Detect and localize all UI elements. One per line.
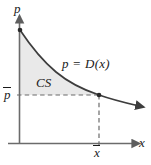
equilibrium-quantity-text: x — [94, 146, 100, 159]
equilibrium-price-label: p — [4, 88, 11, 101]
x-axis-label: x — [139, 136, 145, 149]
y-axis-label: p — [14, 2, 21, 15]
equilibrium-price-text: p — [4, 88, 11, 101]
demand-curve-label: p = D(x) — [62, 57, 110, 70]
equilibrium-quantity-label: x — [94, 146, 100, 159]
figure-canvas — [0, 0, 151, 165]
curve-start-point — [18, 28, 23, 33]
equilibrium-point — [97, 93, 102, 98]
demand-curve-figure: p x CS p = D(x) p x — [0, 0, 151, 165]
consumer-surplus-label: CS — [36, 76, 51, 89]
